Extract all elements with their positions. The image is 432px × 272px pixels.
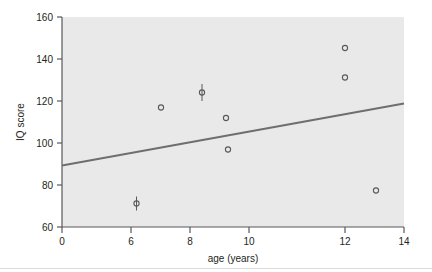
y-tick-label-100: 100 — [36, 138, 53, 149]
plot-area — [62, 17, 404, 227]
x-tick-label-10: 10 — [243, 236, 255, 247]
y-tick-label-160: 160 — [36, 12, 53, 23]
scatter-chart: 160 140 120 100 80 60 IQ score 0 6 8 10 … — [0, 0, 432, 272]
x-tick-label-6: 6 — [128, 236, 134, 247]
y-tick-label-60: 60 — [42, 222, 54, 233]
y-tick-label-140: 140 — [36, 54, 53, 65]
x-tick-label-8: 8 — [187, 236, 193, 247]
y-tick-label-80: 80 — [42, 180, 54, 191]
y-tick-label-120: 120 — [36, 96, 53, 107]
y-axis-title: IQ score — [15, 103, 26, 141]
x-axis-title: age (years) — [208, 253, 259, 264]
x-tick-label-0: 0 — [59, 236, 65, 247]
x-tick-label-12: 12 — [339, 236, 351, 247]
x-tick-label-14: 14 — [398, 236, 410, 247]
